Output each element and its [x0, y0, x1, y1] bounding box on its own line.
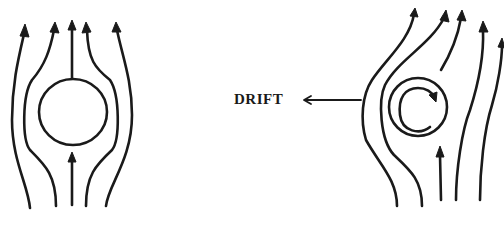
arrowhead-icon	[498, 38, 504, 48]
streamline	[456, 30, 483, 200]
arrowhead-icon	[457, 10, 466, 21]
streamline	[480, 45, 502, 200]
drift-arrow	[304, 96, 361, 104]
arrowhead-icon	[112, 22, 121, 32]
left-figure	[12, 20, 132, 208]
streamline	[12, 34, 30, 208]
cylinder-left	[39, 79, 107, 145]
diagram-svg	[0, 0, 504, 232]
drift-label: DRIFT	[234, 91, 283, 108]
arrowhead-icon	[68, 20, 76, 30]
rotation-arc	[400, 88, 434, 131]
arrowhead-icon	[436, 146, 444, 157]
arrowhead-icon	[68, 152, 76, 162]
arrowhead-icon	[410, 8, 418, 17]
streamline	[441, 18, 461, 70]
streamline	[86, 30, 118, 206]
diagram-canvas: DRIFT	[0, 0, 504, 232]
right-figure	[363, 8, 504, 206]
arrowhead-icon	[440, 10, 449, 22]
arrowhead-icon	[50, 22, 59, 33]
streamline	[440, 155, 441, 200]
arrowhead-icon	[20, 24, 29, 37]
arrowhead-icon	[82, 22, 91, 33]
arrowhead-icon	[479, 21, 488, 32]
